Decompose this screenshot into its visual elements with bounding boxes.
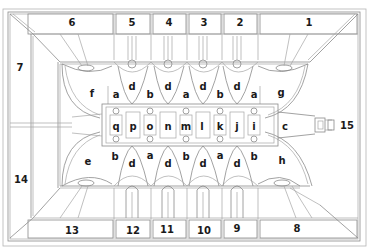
upper-vault-letter: d [233,82,240,92]
bay-number-label: 11 [160,225,174,235]
bay-number-label: 6 [69,18,76,28]
upper-vault-letter: g [277,88,284,98]
lower-vault-letter: b [250,152,257,162]
upper-vault-letter: a [183,90,190,100]
bay-number-label: 3 [201,18,208,28]
nave-cell-letter: q [112,122,119,132]
lower-vault-letter: a [147,151,154,161]
nave-cell-letter: i [252,122,255,132]
nave-cell-letter: l [200,122,203,132]
nave-cell-letter: j [235,122,238,132]
lower-vault-letter: b [182,152,189,162]
ceiling-plan-diagram: 123456789101112131415fadbdadbdagqponmlkj… [0,0,369,248]
lower-vault-letter: d [128,159,135,169]
bay-number-label: 5 [129,18,136,28]
upper-vault-letter: a [113,90,120,100]
upper-vault-letter: d [199,82,206,92]
lower-vault-letter: b [111,152,118,162]
upper-vault-letter: a [251,90,258,100]
nave-cell-letter: k [217,122,224,132]
bay-number-label: 13 [65,226,79,236]
bay-number-label: 9 [234,224,241,234]
lower-vault-letter: d [164,159,171,169]
lower-vault-letter: d [199,159,206,169]
lower-vault-letter: d [233,159,240,169]
bay-number-label: 14 [14,175,28,185]
bay-number-label: 15 [340,121,354,131]
upper-vault-letter: d [128,82,135,92]
nave-cell-letter: n [164,122,171,132]
bay-number-label: 4 [166,18,173,28]
nave-cell-letter: c [282,122,288,132]
bay-number-label: 1 [306,18,313,28]
upper-vault-letter: d [164,82,171,92]
upper-vault-letter: f [90,89,94,99]
bay-number-label: 10 [197,226,211,236]
bay-number-label: 2 [237,18,244,28]
bay-number-label: 7 [17,63,24,73]
upper-vault-letter: b [146,90,153,100]
lower-vault-letter: h [278,156,285,166]
bay-number-label: 8 [294,224,301,234]
upper-vault-letter: b [216,90,223,100]
lower-vault-letter: a [217,151,224,161]
nave-cell-letter: m [181,122,191,132]
nave-cell-letter: o [147,122,154,132]
bay-number-label: 12 [126,226,140,236]
lower-vault-letter: e [85,157,92,167]
nave-cell-letter: p [129,122,136,132]
